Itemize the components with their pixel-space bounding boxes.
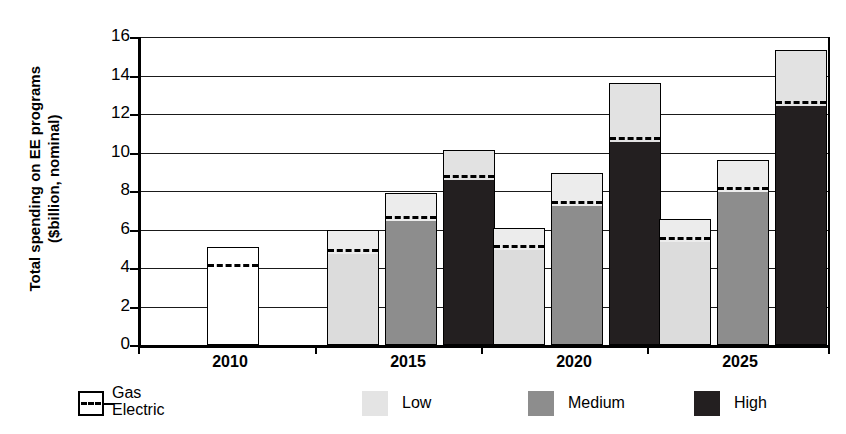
y-axis-tick-label: 16 xyxy=(96,27,130,44)
bar-2020-high xyxy=(609,83,661,345)
chart-figure: Total spending on EE programs ($billion,… xyxy=(0,0,846,434)
x-axis-tick-mark xyxy=(481,345,483,354)
y-axis-tick-label: 4 xyxy=(96,258,130,275)
gas-electric-divider xyxy=(660,237,710,240)
y-axis-title: Total spending on EE programs ($billion,… xyxy=(26,14,64,344)
bar-segment-electric xyxy=(552,204,602,344)
x-axis-label-2020: 2020 xyxy=(529,353,619,371)
x-axis-tick-mark xyxy=(138,345,140,354)
bar-segment-electric xyxy=(444,178,494,344)
bar-segment-electric xyxy=(494,248,544,344)
legend-label-gas: Gas xyxy=(112,385,232,402)
gas-electric-divider xyxy=(386,216,436,219)
gas-electric-divider xyxy=(494,245,544,248)
bar-2015-low xyxy=(327,230,379,346)
y-axis-tick-label: 8 xyxy=(96,181,130,198)
bar-segment-gas xyxy=(610,84,660,142)
x-axis-tick-mark xyxy=(647,345,649,354)
legend-label-electric: Electric xyxy=(112,402,232,419)
bar-2010-base xyxy=(207,247,259,345)
y-axis-tick-label: 12 xyxy=(96,104,130,121)
bar-segment-electric xyxy=(386,219,436,344)
y-axis-tick-label: 14 xyxy=(96,66,130,83)
y-axis-tick-label: 10 xyxy=(96,143,130,160)
legend-dashed-divider xyxy=(81,402,101,405)
x-axis-label-2015: 2015 xyxy=(363,353,453,371)
bar-2015-high xyxy=(443,150,495,345)
legend-swatch-low xyxy=(362,391,388,416)
bar-segment-electric xyxy=(208,267,258,344)
y-axis-tick-label: 6 xyxy=(96,220,130,237)
chart-legend: GasElectricLowMediumHigh xyxy=(0,381,846,434)
legend-swatch-high xyxy=(694,391,720,416)
bar-segment-electric xyxy=(610,140,660,344)
y-axis-title-wrap: Total spending on EE programs ($billion,… xyxy=(0,0,60,360)
x-axis-tick-mark xyxy=(315,345,317,354)
bar-2025-low xyxy=(659,219,711,345)
bar-2020-medium xyxy=(551,173,603,345)
y-axis-title-line2: ($billion, nominal) xyxy=(45,14,64,344)
gas-electric-divider xyxy=(552,201,602,204)
bar-segment-electric xyxy=(328,252,378,344)
gas-electric-divider xyxy=(610,137,660,140)
bar-segment-electric xyxy=(718,190,768,344)
plot-area xyxy=(138,37,830,345)
x-axis-label-2010: 2010 xyxy=(185,353,275,371)
legend-swatch-gas-electric xyxy=(78,391,104,416)
legend-swatch-medium xyxy=(528,391,554,416)
y-axis-title-line1: Total spending on EE programs xyxy=(26,66,43,292)
y-axis-tick-label: 0 xyxy=(96,335,130,352)
x-axis-label-2025: 2025 xyxy=(695,353,785,371)
bar-2020-low xyxy=(493,228,545,345)
bar-segment-electric xyxy=(660,240,710,344)
legend-label-low: Low xyxy=(402,395,431,411)
legend-label-medium: Medium xyxy=(568,395,625,411)
legend-label-gas-electric: GasElectric xyxy=(112,385,232,419)
x-axis-tick-mark xyxy=(828,345,830,354)
y-axis-tick-label: 2 xyxy=(96,297,130,314)
bar-2025-medium xyxy=(717,160,769,345)
bar-segment-electric xyxy=(776,104,826,344)
gas-electric-divider xyxy=(718,187,768,190)
bar-segment-gas xyxy=(776,51,826,107)
gas-electric-divider xyxy=(328,249,378,252)
bar-2015-medium xyxy=(385,193,437,345)
gas-electric-divider xyxy=(208,264,258,267)
gas-electric-divider xyxy=(444,175,494,178)
bar-2025-high xyxy=(775,50,827,345)
legend-label-high: High xyxy=(734,395,767,411)
x-axis-line xyxy=(138,345,830,348)
gas-electric-divider xyxy=(776,101,826,104)
